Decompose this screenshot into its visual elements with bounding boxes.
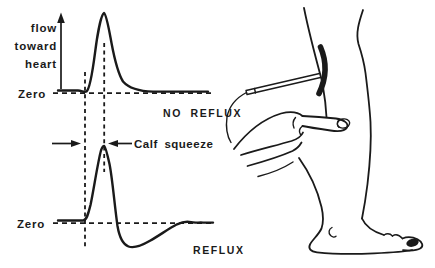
flow-axis-label-line1: flow — [31, 22, 57, 34]
toe-bump-1 — [384, 234, 393, 236]
flow-axis-label-line2: toward — [15, 40, 58, 52]
reflux-tracing: Zero REFLUX — [17, 146, 245, 256]
zero-label-bottom: Zero — [17, 218, 45, 230]
hand-back-contour — [234, 112, 303, 149]
ankle-bone-mark — [329, 228, 336, 237]
thumb-contour — [303, 116, 348, 131]
doppler-reflux-figure: flow toward heart Zero NO REFLUX Calf sq… — [0, 0, 435, 268]
squeeze-markers: Calf squeeze — [52, 43, 213, 248]
flow-axis-label-line3: heart — [25, 58, 57, 70]
thigh-contour-below-probe — [323, 87, 327, 117]
left-arrowhead-icon — [108, 140, 118, 147]
finger-line-1 — [241, 133, 303, 156]
right-arrowhead-icon — [71, 140, 81, 147]
diagram-canvas: flow toward heart Zero NO REFLUX Calf sq… — [0, 0, 435, 268]
reflux-caption: REFLUX — [193, 244, 245, 256]
doppler-probe — [246, 74, 321, 95]
no-reflux-waveform — [58, 13, 208, 92]
leg-illustration — [226, 8, 422, 254]
up-arrow-icon — [57, 13, 65, 24]
reflux-waveform — [58, 146, 213, 247]
instep-contour — [362, 219, 384, 236]
zero-label-top: Zero — [18, 88, 46, 100]
knuckle-crease — [293, 118, 295, 129]
toe-bump-2 — [393, 235, 403, 239]
calf-squeeze-label: Calf squeeze — [134, 138, 213, 150]
no-reflux-tracing: flow toward heart Zero NO REFLUX — [15, 13, 243, 119]
finger-line-3 — [258, 162, 293, 177]
calf-heel-sole-contour — [299, 158, 412, 254]
thumbnail-cuticle — [337, 120, 338, 127]
leg-front-contour — [357, 10, 370, 219]
probe-band — [255, 89, 256, 94]
